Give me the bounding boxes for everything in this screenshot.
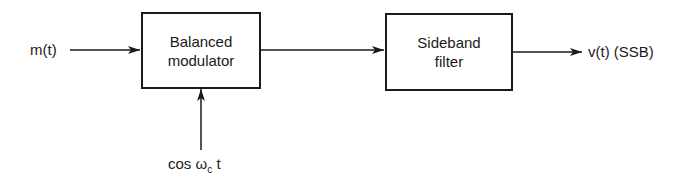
input-label: m(t): [30, 41, 57, 58]
balanced-modulator-block: Balanced modulator: [141, 12, 261, 89]
carrier-label: cos ωc t: [168, 155, 221, 175]
carrier-label-suffix: t: [212, 155, 220, 172]
connectors: [0, 0, 694, 179]
output-label: v(t) (SSB): [588, 43, 654, 60]
balanced-modulator-line2: modulator: [168, 51, 235, 70]
sideband-filter-line2: filter: [435, 52, 463, 71]
carrier-label-prefix: cos ω: [168, 155, 207, 172]
sideband-filter-line1: Sideband: [417, 33, 480, 52]
sideband-filter-block: Sideband filter: [385, 13, 513, 91]
balanced-modulator-line1: Balanced: [170, 32, 233, 51]
